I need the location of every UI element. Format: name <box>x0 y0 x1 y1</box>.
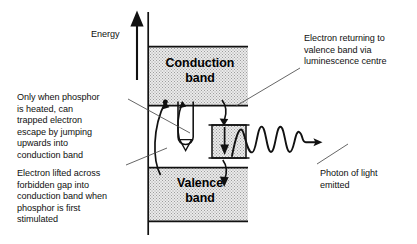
valence-band-label: Valence band <box>155 176 245 205</box>
leader-line-lifted <box>126 148 167 165</box>
leader-line-photon <box>317 144 348 164</box>
annotation-heated-escape: Only when phosphor is heated, can trappe… <box>17 92 100 162</box>
electron-lifted-arrow-icon <box>155 102 165 175</box>
annotation-electron-lifted: Electron lifted across forbidden gap int… <box>17 168 107 226</box>
conduction-band-label: Conduction band <box>155 56 245 85</box>
annotation-electron-returning: Electron returning to valence band via l… <box>304 33 386 68</box>
energy-axis-label: Energy <box>91 29 120 41</box>
diagram-canvas: Energy Conduction band Valence band Only… <box>0 0 417 244</box>
energy-arrow-icon <box>130 11 143 81</box>
annotation-photon-emitted: Photon of light emitted <box>320 168 377 191</box>
luminescence-centre-box <box>209 125 250 158</box>
